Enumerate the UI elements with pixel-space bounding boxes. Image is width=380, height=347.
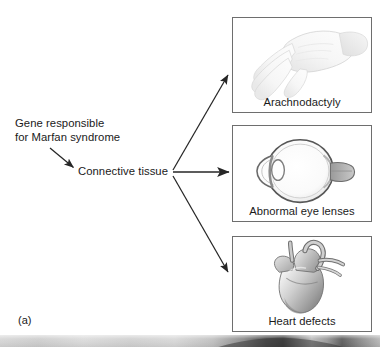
panel-eye: Abnormal eye lenses xyxy=(232,125,372,222)
arrow-connective-tissue-to-heart xyxy=(173,176,228,272)
panel-heart: Heart defects xyxy=(232,236,372,332)
panel-caption-arachnodactyly: Arachnodactyly xyxy=(233,96,371,108)
panel-caption-heart: Heart defects xyxy=(233,315,371,327)
gene-source-line-1: Gene responsible xyxy=(15,117,104,129)
panel-arachnodactyly: Arachnodactyly xyxy=(232,17,372,113)
gene-source-label: Gene responsiblefor Marfan syndrome xyxy=(15,117,120,144)
arrow-gene-to-connective-tissue xyxy=(50,148,74,168)
figure-part-label: (a) xyxy=(18,314,31,326)
marfan-syndrome-figure: Gene responsiblefor Marfan syndrome Conn… xyxy=(0,0,380,347)
arrow-connective-tissue-to-arachnodactyly xyxy=(173,75,228,170)
photo-strip-partial xyxy=(0,334,380,347)
panel-caption-eye: Abnormal eye lenses xyxy=(233,205,371,217)
photo-strip-image xyxy=(0,335,380,347)
connective-tissue-label: Connective tissue xyxy=(78,165,168,179)
gene-source-line-2: for Marfan syndrome xyxy=(15,131,120,143)
